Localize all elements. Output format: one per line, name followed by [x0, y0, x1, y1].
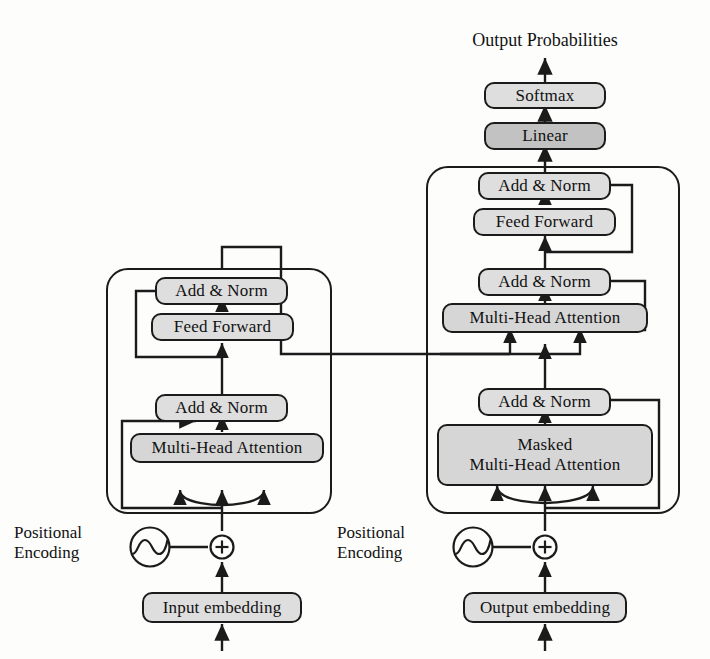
encoder-add-operator — [208, 533, 236, 565]
decoder-add-operator — [531, 533, 559, 565]
encoder-input-embedding-node[interactable]: Input embedding — [142, 592, 302, 623]
transformer-architecture-diagram: Output Probabilities Softmax Linear Add … — [0, 0, 710, 659]
linear-node[interactable]: Linear — [484, 122, 606, 150]
output-probabilities-label: Output Probabilities — [452, 30, 638, 51]
decoder-add-norm-top-node[interactable]: Add & Norm — [478, 172, 611, 200]
encoder-attention-node[interactable]: Multi-Head Attention — [130, 433, 324, 463]
decoder-feed-forward-node[interactable]: Feed Forward — [473, 208, 616, 236]
encoder-add-norm-upper-node[interactable]: Add & Norm — [155, 277, 288, 305]
encoder-feed-forward-node[interactable]: Feed Forward — [151, 313, 294, 341]
decoder-output-embedding-node[interactable]: Output embedding — [463, 592, 627, 623]
decoder-positional-encoding-label: Positional Encoding — [337, 523, 442, 563]
decoder-add-norm-mid-node[interactable]: Add & Norm — [478, 268, 611, 296]
encoder-positional-encoding-label: Positional Encoding — [14, 523, 119, 563]
decoder-masked-attention-node[interactable]: Masked Multi-Head Attention — [437, 424, 653, 486]
decoder-add-norm-bottom-node[interactable]: Add & Norm — [478, 388, 611, 416]
decoder-cross-attention-node[interactable]: Multi-Head Attention — [442, 303, 648, 333]
sinusoid-icon — [452, 524, 496, 574]
decoder-masked-attention-line2: Multi-Head Attention — [470, 455, 621, 475]
encoder-add-norm-lower-node[interactable]: Add & Norm — [155, 394, 288, 422]
softmax-node[interactable]: Softmax — [484, 82, 606, 109]
sinusoid-icon — [129, 524, 173, 574]
decoder-masked-attention-line1: Masked — [517, 435, 572, 455]
